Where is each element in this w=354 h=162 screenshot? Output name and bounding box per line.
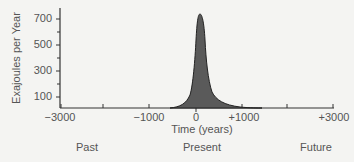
energy-chart: Exajoules per Year 700 500 300 100 −3000… <box>0 0 354 162</box>
x-tick-label: +3000 <box>309 111 354 123</box>
x-tick-label: −3000 <box>35 111 85 123</box>
energy-peak-area <box>170 14 262 108</box>
y-tick-label: 100 <box>22 90 52 102</box>
y-tick-label: 500 <box>22 38 52 50</box>
era-label-present: Present <box>167 141 237 153</box>
y-axis-label: Exajoules per Year <box>10 8 22 108</box>
y-tick-label: 300 <box>22 64 52 76</box>
y-tick-label: 700 <box>22 12 52 24</box>
x-tick-label: −1000 <box>124 111 174 123</box>
x-tick-label: +1000 <box>219 111 269 123</box>
x-tick-label: 0 <box>171 111 221 123</box>
era-label-future: Future <box>281 141 351 153</box>
x-axis-label: Time (years) <box>162 123 242 135</box>
plot-area <box>0 0 354 162</box>
era-label-past: Past <box>52 141 122 153</box>
